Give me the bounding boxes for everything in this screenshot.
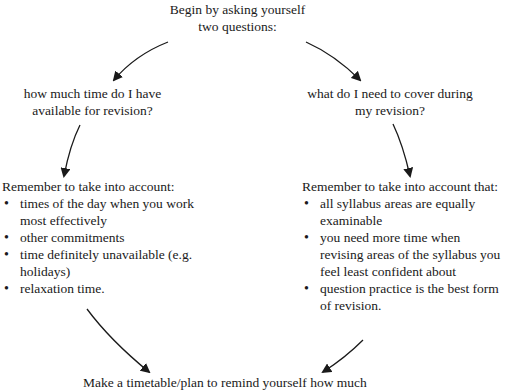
cover-question-line-1: what do I need to cover during — [295, 85, 485, 102]
timetable-line-1: Make a timetable/plan to remind yourself… — [83, 374, 443, 391]
time-question-line-1: how much time do I have — [10, 85, 175, 102]
time-considerations-heading: Remember to take into account: — [2, 178, 197, 195]
start-node: Begin by asking yourself two questions: — [150, 1, 325, 35]
time-considerations: Remember to take into account: times of … — [2, 178, 197, 297]
start-line-1: Begin by asking yourself — [150, 1, 325, 18]
coverage-considerations: Remember to take into account that: all … — [302, 178, 507, 314]
arrow-right-list-to-bottom — [323, 340, 363, 372]
arrow-top-to-left — [114, 42, 168, 80]
arrow-right-question-to-list — [393, 124, 410, 176]
time-considerations-list: times of the day when you work most effe… — [2, 195, 197, 297]
list-item: relaxation time. — [2, 280, 197, 297]
time-question-line-2: available for revision? — [10, 102, 175, 119]
arrow-left-list-to-bottom — [87, 309, 149, 372]
list-item: times of the day when you work most effe… — [2, 195, 197, 229]
list-item: time definitely unavailable (e.g. holida… — [2, 246, 197, 280]
arrow-left-question-to-list — [64, 125, 80, 176]
list-item: question practice is the best form of re… — [302, 280, 507, 314]
cover-question-node: what do I need to cover during my revisi… — [295, 85, 485, 119]
arrow-top-to-right — [306, 42, 360, 80]
time-question-node: how much time do I have available for re… — [10, 85, 175, 119]
start-line-2: two questions: — [150, 18, 325, 35]
list-item: you need more time when revising areas o… — [302, 229, 507, 280]
cover-question-line-2: my revision? — [295, 102, 485, 119]
coverage-considerations-heading: Remember to take into account that: — [302, 178, 507, 195]
list-item: other commitments — [2, 229, 197, 246]
list-item: all syllabus areas are equally examinabl… — [302, 195, 507, 229]
coverage-considerations-list: all syllabus areas are equally examinabl… — [302, 195, 507, 314]
timetable-node: Make a timetable/plan to remind yourself… — [83, 374, 443, 391]
